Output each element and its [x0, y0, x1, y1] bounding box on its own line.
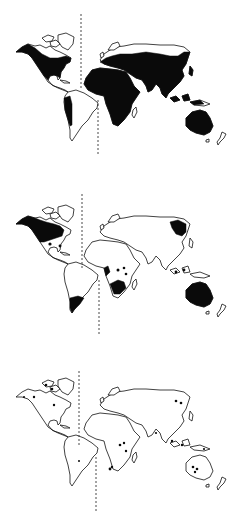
world-map-1: [0, 0, 241, 168]
distribution-map-3: [0, 345, 241, 513]
world-map-3: [0, 345, 241, 513]
distribution-map-1: [0, 0, 241, 168]
world-map-2: [0, 172, 241, 340]
range-fill-1: [16, 44, 213, 135]
distribution-map-2: [0, 172, 241, 340]
